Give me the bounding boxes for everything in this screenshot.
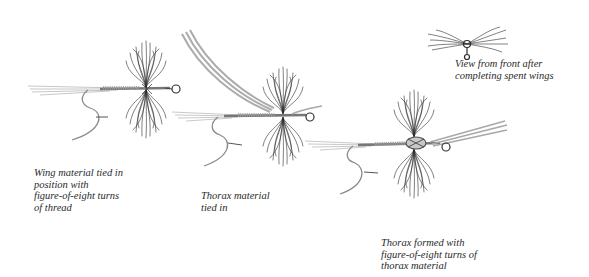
fly-step-3-drawing xyxy=(305,90,507,198)
caption-front-view: View from front after completing spent w… xyxy=(455,58,585,81)
fly-step-1-drawing xyxy=(28,41,180,140)
fly-step-2-drawing xyxy=(172,30,322,166)
caption-step-1: Wing material tied in position with figu… xyxy=(34,167,174,213)
caption-step-3: Thorax formed with figure-of-eight turns… xyxy=(381,237,541,272)
caption-step-2: Thorax material tied in xyxy=(201,190,311,213)
fly-tying-illustration xyxy=(0,0,589,277)
front-view-drawing xyxy=(428,27,508,60)
